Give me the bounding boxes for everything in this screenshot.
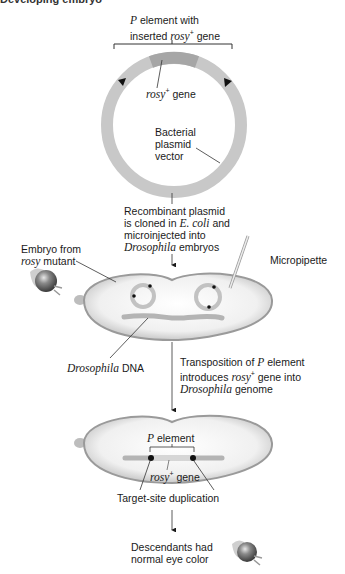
- step2-description: Transposition of P element introduces ro…: [180, 356, 305, 395]
- drosophila-dna-label: Drosophila DNA: [67, 362, 144, 374]
- p-element-inserted-label: P element: [147, 432, 194, 444]
- embryo-1: [74, 236, 272, 358]
- result-description: Descendants had normal eye color: [131, 541, 213, 565]
- p-element-label: P element with: [130, 14, 199, 26]
- fly-head-rosy-mutant-icon: [30, 268, 62, 295]
- bacterial-plasmid-vector-label: Bacterial plasmid vector: [155, 126, 196, 162]
- plasmid-ring: [107, 58, 241, 192]
- rosy-gene-label: rosy+ gene: [146, 85, 196, 100]
- step1-description: Recombinant plasmid is cloned in E. coli…: [124, 205, 230, 253]
- micropipette-label: Micropipette: [270, 254, 327, 266]
- rosy-gene-inserted-label: rosy+ gene: [150, 468, 200, 483]
- fly-head-normal-icon: [232, 540, 262, 565]
- target-site-duplication-label: Target-site duplication: [117, 492, 219, 504]
- embryo-rosy-mutant-label: Embryo from rosy mutant: [21, 243, 81, 267]
- p-element-label-line2: inserted rosy+ gene: [130, 27, 220, 42]
